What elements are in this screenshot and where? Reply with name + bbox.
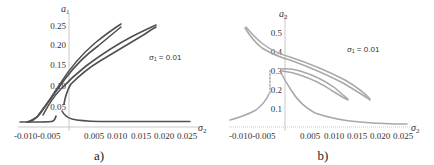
curve-b-middle-inner bbox=[282, 71, 348, 100]
x-tick-b: 0.005 bbox=[300, 131, 321, 141]
y-tick-b: 0.5 bbox=[271, 28, 283, 38]
x-tick-b: 0.015 bbox=[347, 131, 368, 141]
curve-b-left-rising bbox=[230, 94, 269, 120]
figure-canvas: a1 0.25 0.20 0.15 0.10 0.05 -0.010-0.005… bbox=[0, 0, 434, 165]
sigma1-annotation-b: σ₁ = 0.01 bbox=[347, 45, 380, 54]
sigma1-annotation-a: σ₁ = 0.01 bbox=[149, 53, 182, 62]
panel-label-b: b) bbox=[318, 148, 329, 163]
x-tick-a: 0.025 bbox=[177, 131, 198, 141]
curves-a bbox=[20, 24, 190, 122]
curves-b bbox=[230, 27, 407, 124]
y-tick-a: 0.20 bbox=[50, 40, 66, 50]
panel-label-a: a) bbox=[94, 148, 104, 163]
y-tick-a: 0.25 bbox=[50, 21, 66, 31]
x-tick-a: 0.010 bbox=[107, 131, 128, 141]
y-tick-a: 0.15 bbox=[50, 60, 66, 70]
x-axis-label-a: σ2 bbox=[198, 122, 207, 135]
x-tick-a: 0.015 bbox=[131, 131, 152, 141]
x-tick-a: 0.005 bbox=[84, 131, 105, 141]
x-tick-b: 0.020 bbox=[370, 131, 391, 141]
panel-b: a2 0.5 0.4 0.3 0.2 0.1 -0.010-0.005 0.00… bbox=[229, 8, 420, 163]
y-tick-b: 0.2 bbox=[271, 85, 282, 95]
panel-a: a1 0.25 0.20 0.15 0.10 0.05 -0.010-0.005… bbox=[14, 3, 207, 163]
x-tick-b-negative: -0.010-0.005 bbox=[229, 131, 276, 141]
y-tick-b: 0.1 bbox=[271, 104, 282, 114]
x-tick-a: 0.020 bbox=[154, 131, 175, 141]
curve-a-upper-2-inner bbox=[64, 27, 156, 104]
x-tick-b: 0.010 bbox=[324, 131, 345, 141]
x-tick-a-negative: -0.010-0.005 bbox=[14, 131, 61, 141]
y-tick-b: 0.3 bbox=[271, 66, 283, 76]
y-axis-label-b: a2 bbox=[279, 8, 288, 21]
curve-a-lower-right bbox=[62, 111, 190, 122]
y-axis-label-a: a1 bbox=[61, 3, 70, 16]
